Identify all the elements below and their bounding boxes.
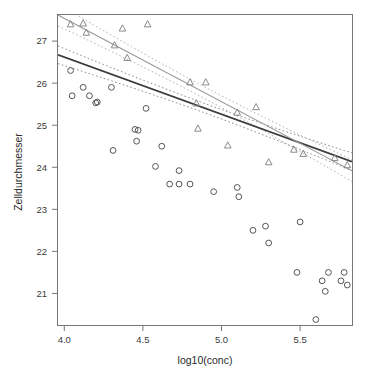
figure-background [0, 0, 367, 377]
scatter-plot-figure: 21222324252627 4.04.55.05.5 log10(conc) … [0, 0, 367, 377]
y-tick-label: 23 [36, 204, 47, 215]
x-tick-label: 5.5 [294, 334, 307, 345]
y-tick-label: 21 [36, 288, 47, 299]
x-tick-label: 4.5 [136, 334, 149, 345]
y-tick-label: 24 [36, 162, 47, 173]
y-axis-title: Zelldurchmesser [12, 133, 24, 211]
plot-canvas: 21222324252627 4.04.55.05.5 log10(conc) … [0, 0, 367, 377]
x-axis-title: log10(conc) [178, 354, 233, 366]
x-tick-label: 4.0 [58, 334, 71, 345]
y-tick-label: 22 [36, 246, 47, 257]
y-tick-label: 27 [36, 35, 47, 46]
y-tick-label: 26 [36, 78, 47, 89]
y-tick-label: 25 [36, 120, 47, 131]
x-tick-label: 5.0 [215, 334, 228, 345]
